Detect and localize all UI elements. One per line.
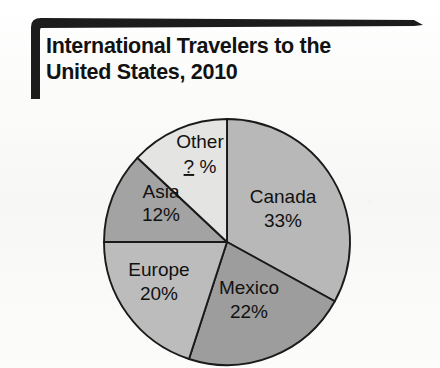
chart-title-block: International Travelers to the United St… [0,0,440,112]
percent-sign: % [194,156,216,177]
pie-slice-label-other: Other [176,131,224,152]
pie-slice-label-europe: Europe [128,259,189,280]
unknown-value-marker: ? [184,156,195,177]
pie-slice-value-europe: 20% [140,283,178,304]
pie-slice-label-asia: Asia [143,181,180,202]
page-title: International Travelers to the United St… [46,33,396,85]
pie-slice-group [104,119,350,365]
pie-slice-value-other: ? % [184,156,217,177]
pie-slice-label-canada: Canada [250,186,317,207]
pie-slice-value-asia: 12% [142,204,180,225]
pie-slice-value-canada: 33% [264,210,302,231]
pie-slice-value-mexico: 22% [230,301,268,322]
page-title-line-2: United States, 2010 [46,59,396,85]
page-title-line-1: International Travelers to the [46,33,396,59]
pie-slice-label-mexico: Mexico [219,277,279,298]
